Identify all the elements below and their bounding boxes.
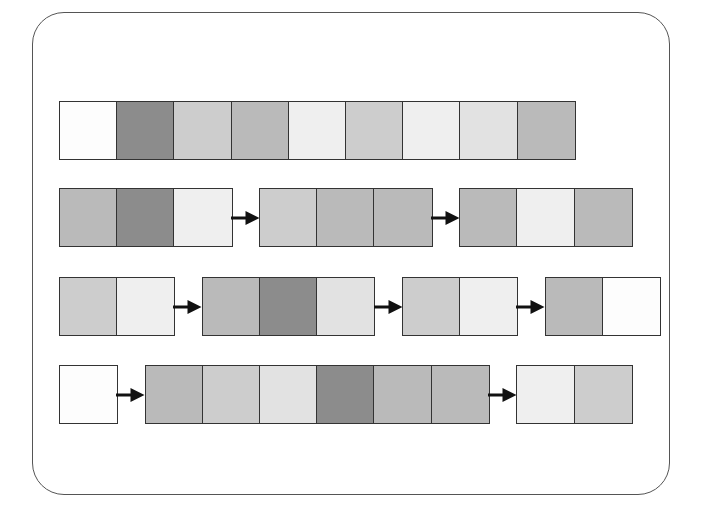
block-cell-light-medium bbox=[575, 366, 632, 423]
row-3-group-1 bbox=[59, 277, 175, 336]
block-cell-very-light bbox=[403, 102, 460, 159]
arrow-icon bbox=[173, 299, 202, 315]
row-2-group-1 bbox=[59, 188, 233, 247]
block-cell-medium bbox=[575, 189, 632, 246]
block-cell-medium bbox=[60, 189, 117, 246]
row-4-group-3 bbox=[516, 365, 632, 424]
block-cell-very-light bbox=[174, 189, 231, 246]
block-cell-dark bbox=[117, 102, 174, 159]
row-3-group-4 bbox=[545, 277, 661, 336]
block-cell-medium bbox=[460, 189, 517, 246]
block-cell-light-medium bbox=[346, 102, 403, 159]
arrow-icon bbox=[488, 387, 517, 403]
arrow-icon bbox=[231, 210, 260, 226]
arrow-icon bbox=[516, 299, 545, 315]
row-4-group-1 bbox=[59, 365, 118, 424]
block-cell-light-medium bbox=[174, 102, 231, 159]
block-cell-light bbox=[317, 278, 374, 335]
arrow-icon bbox=[116, 387, 145, 403]
block-cell-medium bbox=[203, 278, 260, 335]
block-cell-medium bbox=[432, 366, 489, 423]
block-cell-medium bbox=[546, 278, 603, 335]
block-cell-medium bbox=[374, 189, 431, 246]
row-2-group-2 bbox=[259, 188, 433, 247]
block-cell-light-medium bbox=[60, 278, 117, 335]
block-cell-medium bbox=[518, 102, 575, 159]
block-cell-dark bbox=[317, 366, 374, 423]
block-cell-very-light bbox=[517, 189, 574, 246]
row-3-group-2 bbox=[202, 277, 376, 336]
block-cell-light bbox=[460, 102, 517, 159]
block-cell-dark bbox=[260, 278, 317, 335]
block-cell-light-medium bbox=[260, 189, 317, 246]
block-cell-very-light bbox=[460, 278, 517, 335]
arrow-icon bbox=[374, 299, 403, 315]
block-cell-white bbox=[603, 278, 660, 335]
block-cell-medium bbox=[374, 366, 431, 423]
block-cell-light-medium bbox=[403, 278, 460, 335]
block-cell-light-medium bbox=[203, 366, 260, 423]
block-cell-medium bbox=[232, 102, 289, 159]
arrow-icon bbox=[431, 210, 460, 226]
block-cell-dark bbox=[117, 189, 174, 246]
row-2-group-3 bbox=[459, 188, 633, 247]
block-cell-medium bbox=[146, 366, 203, 423]
block-cell-white bbox=[60, 366, 117, 423]
row-1-group-1 bbox=[59, 101, 576, 160]
block-cell-very-light bbox=[117, 278, 174, 335]
block-cell-very-light bbox=[517, 366, 574, 423]
block-cell-very-light bbox=[289, 102, 346, 159]
block-cell-white bbox=[60, 102, 117, 159]
row-3-group-3 bbox=[402, 277, 518, 336]
block-cell-medium bbox=[317, 189, 374, 246]
row-4-group-2 bbox=[145, 365, 490, 424]
block-cell-light bbox=[260, 366, 317, 423]
